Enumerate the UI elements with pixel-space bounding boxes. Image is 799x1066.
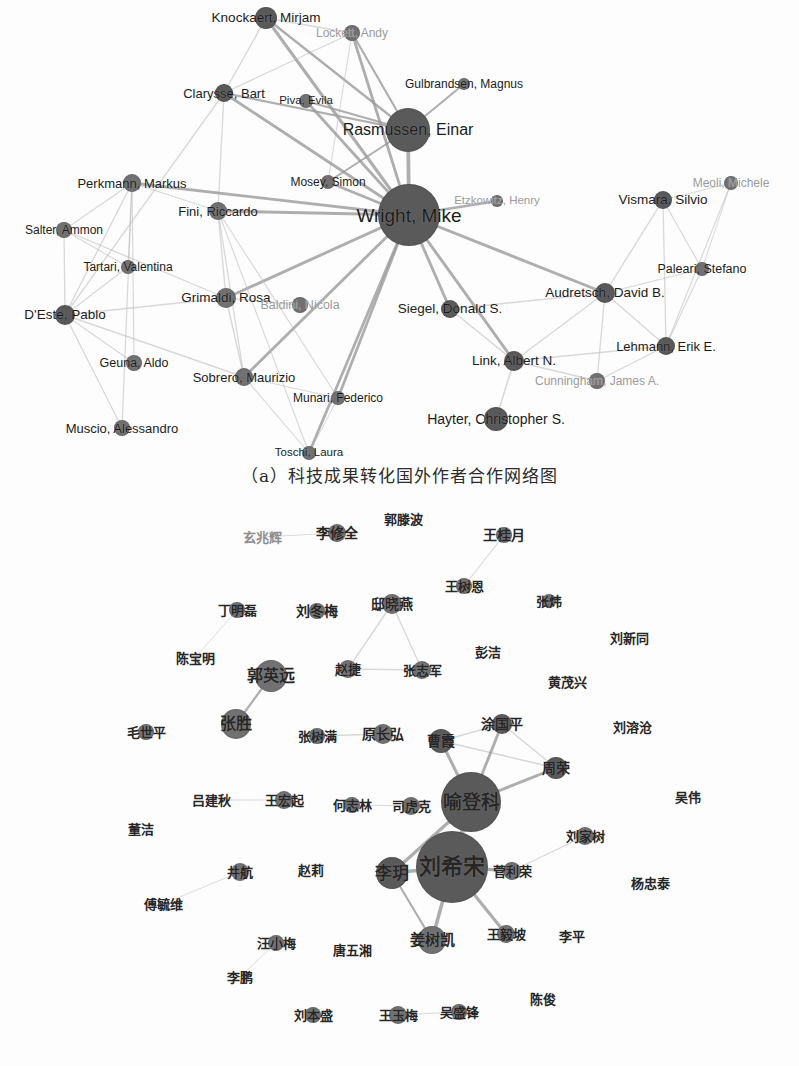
network-edge <box>605 200 663 293</box>
network-node[interactable] <box>484 407 508 431</box>
network-node[interactable] <box>309 603 325 619</box>
network-edge <box>244 377 309 453</box>
network-node[interactable] <box>216 288 236 308</box>
network-node[interactable] <box>255 660 287 692</box>
network-node[interactable] <box>386 108 430 152</box>
network-node[interactable] <box>302 446 316 460</box>
network-node[interactable] <box>209 202 227 220</box>
network-edge <box>663 200 702 269</box>
network-node[interactable] <box>114 420 130 436</box>
network-node[interactable] <box>503 862 521 880</box>
network-node[interactable] <box>305 1007 321 1023</box>
network-node[interactable] <box>299 94 313 108</box>
network-node[interactable] <box>545 757 567 779</box>
network-node[interactable] <box>589 373 605 389</box>
network-node[interactable] <box>441 300 459 318</box>
network-node[interactable] <box>275 791 293 809</box>
network-node[interactable] <box>138 724 154 740</box>
network-node[interactable] <box>492 714 512 734</box>
network-node[interactable] <box>56 222 72 238</box>
network-edge <box>309 398 338 453</box>
network-node[interactable] <box>654 191 672 209</box>
network-b-edges <box>0 500 799 1066</box>
network-edge <box>163 872 240 904</box>
network-node[interactable] <box>121 260 135 274</box>
network-edge <box>64 183 132 230</box>
network-edge <box>464 535 504 586</box>
network-node[interactable] <box>221 709 251 739</box>
network-edge <box>663 183 731 200</box>
network-node[interactable] <box>595 283 615 303</box>
network-edge <box>65 267 128 315</box>
panel-a-foreign-author-network: Knockaert, MirjamLockett, AndyClarysse, … <box>0 0 799 465</box>
network-node[interactable] <box>542 594 556 608</box>
network-edge <box>195 610 237 658</box>
network-node[interactable] <box>416 831 488 903</box>
network-edge <box>348 669 422 670</box>
network-edge <box>512 836 585 871</box>
network-node[interactable] <box>231 863 249 881</box>
network-node[interactable] <box>504 351 524 371</box>
network-edge <box>244 377 338 398</box>
network-node[interactable] <box>491 195 503 207</box>
network-edge <box>309 215 409 453</box>
network-edge <box>398 1012 459 1015</box>
network-node[interactable] <box>451 1004 467 1020</box>
network-edge <box>65 315 134 363</box>
network-edge <box>392 604 422 670</box>
figure-container: Knockaert, MirjamLockett, AndyClarysse, … <box>0 0 799 1066</box>
network-edge <box>226 298 244 377</box>
network-edge <box>666 269 702 346</box>
network-node[interactable] <box>376 857 408 889</box>
network-node[interactable] <box>382 594 402 614</box>
network-edge <box>226 298 300 305</box>
panel-a-caption: （a）科技成果转化国外作者合作网络图 <box>0 462 799 502</box>
network-node[interactable] <box>339 660 357 678</box>
network-node[interactable] <box>456 578 472 594</box>
network-node[interactable] <box>402 797 420 815</box>
network-node[interactable] <box>389 1006 407 1024</box>
network-edge <box>450 293 605 309</box>
network-node[interactable] <box>215 84 233 102</box>
network-node[interactable] <box>497 925 515 943</box>
network-b-canvas: 玄兆辉李修全郭滕波王桂月王树恩张炜丁明磊刘冬梅邸晓燕刘新同彭洁陈宝明赵捷张志军黄… <box>0 500 799 1066</box>
network-edge <box>132 183 134 363</box>
network-edge <box>65 298 226 315</box>
network-node[interactable] <box>344 797 360 813</box>
network-node[interactable] <box>413 661 431 679</box>
network-edge <box>514 293 605 361</box>
network-edge <box>224 18 266 93</box>
network-node[interactable] <box>441 772 501 832</box>
network-node[interactable] <box>657 337 675 355</box>
network-edge <box>65 183 132 315</box>
network-edge <box>65 93 224 315</box>
network-node[interactable] <box>695 262 709 276</box>
network-node[interactable] <box>309 728 325 744</box>
network-node[interactable] <box>235 368 253 386</box>
network-edge <box>663 200 666 346</box>
network-node[interactable] <box>418 926 446 954</box>
network-node[interactable] <box>576 827 594 845</box>
panel-b-chinese-author-network: 玄兆辉李修全郭滕波王桂月王树恩张炜丁明磊刘冬梅邸晓燕刘新同彭洁陈宝明赵捷张志军黄… <box>0 500 799 1066</box>
network-node[interactable] <box>344 25 360 41</box>
network-a-canvas: Knockaert, MirjamLockett, AndyClarysse, … <box>0 0 799 465</box>
network-node[interactable] <box>496 527 512 543</box>
network-node[interactable] <box>255 7 277 29</box>
network-node[interactable] <box>373 724 393 744</box>
network-edge <box>605 293 666 346</box>
network-node[interactable] <box>378 184 440 246</box>
network-node[interactable] <box>123 174 141 192</box>
network-edge <box>702 183 731 269</box>
network-node[interactable] <box>292 297 308 313</box>
network-node[interactable] <box>55 305 75 325</box>
network-node[interactable] <box>429 729 453 753</box>
network-node[interactable] <box>229 602 245 618</box>
network-node[interactable] <box>724 176 738 190</box>
network-node[interactable] <box>268 935 284 951</box>
network-node[interactable] <box>321 175 335 189</box>
network-node[interactable] <box>331 391 345 405</box>
network-node[interactable] <box>458 78 470 90</box>
network-node[interactable] <box>328 524 346 542</box>
network-node[interactable] <box>126 355 142 371</box>
network-edge <box>266 18 408 130</box>
